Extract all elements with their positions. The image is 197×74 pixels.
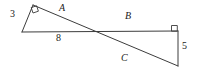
- label-side-a: A: [59, 3, 65, 13]
- label-side-c: C: [121, 53, 128, 63]
- label-leg-left-length: 3: [10, 9, 15, 19]
- label-side-b: B: [125, 11, 131, 21]
- segment-horizontal-base: [22, 31, 178, 32]
- label-base-length: 8: [56, 33, 61, 43]
- segment-diagonal: [33, 5, 178, 66]
- geometry-figure: A B C 3 8 5: [0, 0, 197, 74]
- right-angle-top-right-icon: [172, 26, 178, 32]
- right-angle-top-left-icon: [31, 6, 38, 13]
- label-leg-right-length: 5: [182, 41, 187, 51]
- figure-canvas: [0, 0, 197, 74]
